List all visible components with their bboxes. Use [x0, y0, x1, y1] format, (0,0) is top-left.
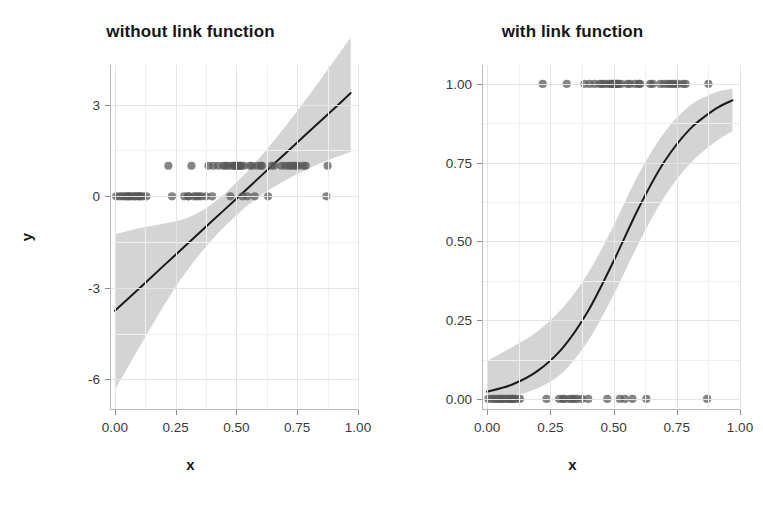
y-axis-tick [105, 196, 110, 197]
y-tick-label: 0.00 [414, 391, 472, 406]
x-tick-label: 0.75 [664, 420, 690, 435]
panel-title-right: with link function [382, 22, 763, 42]
grid-major-horizontal [110, 379, 358, 380]
x-axis-line [110, 409, 358, 410]
y-tick-label: 0.25 [414, 313, 472, 328]
x-axis-tick [176, 410, 177, 415]
grid-major-horizontal [110, 105, 358, 106]
fit-line [115, 93, 351, 311]
x-axis-tick [614, 410, 615, 415]
grid-major-vertical [677, 65, 678, 410]
grid-minor-horizontal [110, 150, 358, 151]
y-axis-line [482, 65, 483, 410]
grid-minor-horizontal [482, 123, 740, 124]
x-tick-label: 0.50 [223, 420, 249, 435]
grid-minor-horizontal [110, 242, 358, 243]
x-axis-line [482, 409, 740, 410]
grid-major-vertical [740, 65, 741, 410]
grid-major-vertical [550, 65, 551, 410]
confidence-ribbon [487, 89, 732, 399]
grid-major-vertical [236, 65, 237, 410]
x-axis-tick [358, 410, 359, 415]
x-axis-tick [487, 410, 488, 415]
x-axis-tick [740, 410, 741, 415]
panel-title-left: without link function [0, 22, 381, 42]
x-axis-tick [236, 410, 237, 415]
plot-area-left: 0.000.250.500.751.00-6-303 [110, 65, 358, 410]
y-axis-tick [105, 288, 110, 289]
grid-major-vertical [176, 65, 177, 410]
grid-major-vertical [614, 65, 615, 410]
grid-major-horizontal [110, 288, 358, 289]
data-point [187, 162, 195, 170]
plot-graphics-left [110, 65, 358, 410]
grid-minor-vertical [145, 65, 146, 410]
x-tick-label: 0.00 [102, 420, 128, 435]
grid-minor-horizontal [110, 334, 358, 335]
grid-minor-horizontal [482, 202, 740, 203]
y-axis-tick [105, 105, 110, 106]
y-tick-label: -6 [42, 372, 100, 387]
x-axis-tick [677, 410, 678, 415]
y-tick-label: 0.75 [414, 155, 472, 170]
grid-major-horizontal [110, 196, 358, 197]
x-tick-label: 0.75 [284, 420, 310, 435]
plot-graphics-right [482, 65, 740, 410]
y-axis-tick [105, 379, 110, 380]
grid-major-horizontal [482, 163, 740, 164]
grid-major-vertical [358, 65, 359, 410]
y-axis-tick [477, 84, 482, 85]
panel-with-link-function: with link function 0.000.250.500.751.000… [382, 0, 763, 513]
y-axis-title-left: y [18, 233, 35, 241]
y-axis-line [110, 65, 111, 410]
panel-without-link-function: without link function 0.000.250.500.751.… [0, 0, 381, 513]
x-axis-tick [115, 410, 116, 415]
two-panel-regression-figure: without link function 0.000.250.500.751.… [0, 0, 763, 513]
grid-minor-vertical [206, 65, 207, 410]
y-tick-label: 0 [42, 189, 100, 204]
x-tick-label: 0.25 [537, 420, 563, 435]
x-tick-label: 1.00 [727, 420, 753, 435]
grid-minor-vertical [519, 65, 520, 410]
data-point [302, 162, 310, 170]
x-axis-title-right: x [382, 456, 763, 473]
y-axis-tick [477, 163, 482, 164]
x-tick-label: 1.00 [345, 420, 371, 435]
x-tick-label: 0.25 [163, 420, 189, 435]
y-tick-label: 3 [42, 97, 100, 112]
grid-major-horizontal [482, 399, 740, 400]
grid-major-vertical [115, 65, 116, 410]
grid-minor-horizontal [482, 360, 740, 361]
x-axis-tick [550, 410, 551, 415]
y-tick-label: 0.50 [414, 234, 472, 249]
grid-major-horizontal [482, 241, 740, 242]
y-axis-tick [477, 320, 482, 321]
y-axis-tick [477, 399, 482, 400]
grid-major-vertical [487, 65, 488, 410]
grid-minor-vertical [708, 65, 709, 410]
x-tick-label: 0.00 [474, 420, 500, 435]
grid-minor-horizontal [482, 281, 740, 282]
grid-minor-vertical [328, 65, 329, 410]
data-point [270, 162, 278, 170]
data-point [164, 162, 172, 170]
y-tick-label: -3 [42, 280, 100, 295]
grid-major-horizontal [482, 320, 740, 321]
x-tick-label: 0.50 [600, 420, 626, 435]
grid-minor-vertical [267, 65, 268, 410]
x-axis-tick [297, 410, 298, 415]
data-point [258, 162, 266, 170]
y-tick-label: 1.00 [414, 76, 472, 91]
confidence-ribbon [115, 38, 351, 391]
grid-major-horizontal [482, 84, 740, 85]
grid-major-vertical [297, 65, 298, 410]
y-axis-tick [477, 241, 482, 242]
grid-minor-vertical [582, 65, 583, 410]
x-axis-title-left: x [0, 456, 381, 473]
plot-area-right: 0.000.250.500.751.000.000.250.500.751.00 [482, 65, 740, 410]
grid-minor-vertical [645, 65, 646, 410]
